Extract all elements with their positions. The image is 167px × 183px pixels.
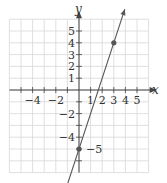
data-point bbox=[76, 146, 81, 151]
data-point bbox=[111, 40, 116, 45]
x-tick-label: −2 bbox=[48, 94, 64, 107]
y-axis-label: y bbox=[74, 2, 82, 16]
y-tick-label: −4 bbox=[59, 131, 75, 144]
x-tick-label: 2 bbox=[99, 94, 106, 107]
y-tick-label: 1 bbox=[68, 72, 75, 85]
x-tick-label: 4 bbox=[122, 94, 129, 107]
axes bbox=[9, 11, 156, 172]
point-label-minus-5: −5 bbox=[86, 143, 102, 156]
y-tick-label: −2 bbox=[59, 108, 75, 121]
arrow-up-icon bbox=[120, 9, 125, 16]
coordinate-plane: −4−21234554321−2−4 x y −5 bbox=[0, 0, 167, 183]
x-tick-label: −4 bbox=[24, 94, 40, 107]
x-tick-label: 5 bbox=[134, 94, 141, 107]
x-tick-label: 3 bbox=[110, 94, 117, 107]
x-axis-label: x bbox=[152, 83, 159, 97]
